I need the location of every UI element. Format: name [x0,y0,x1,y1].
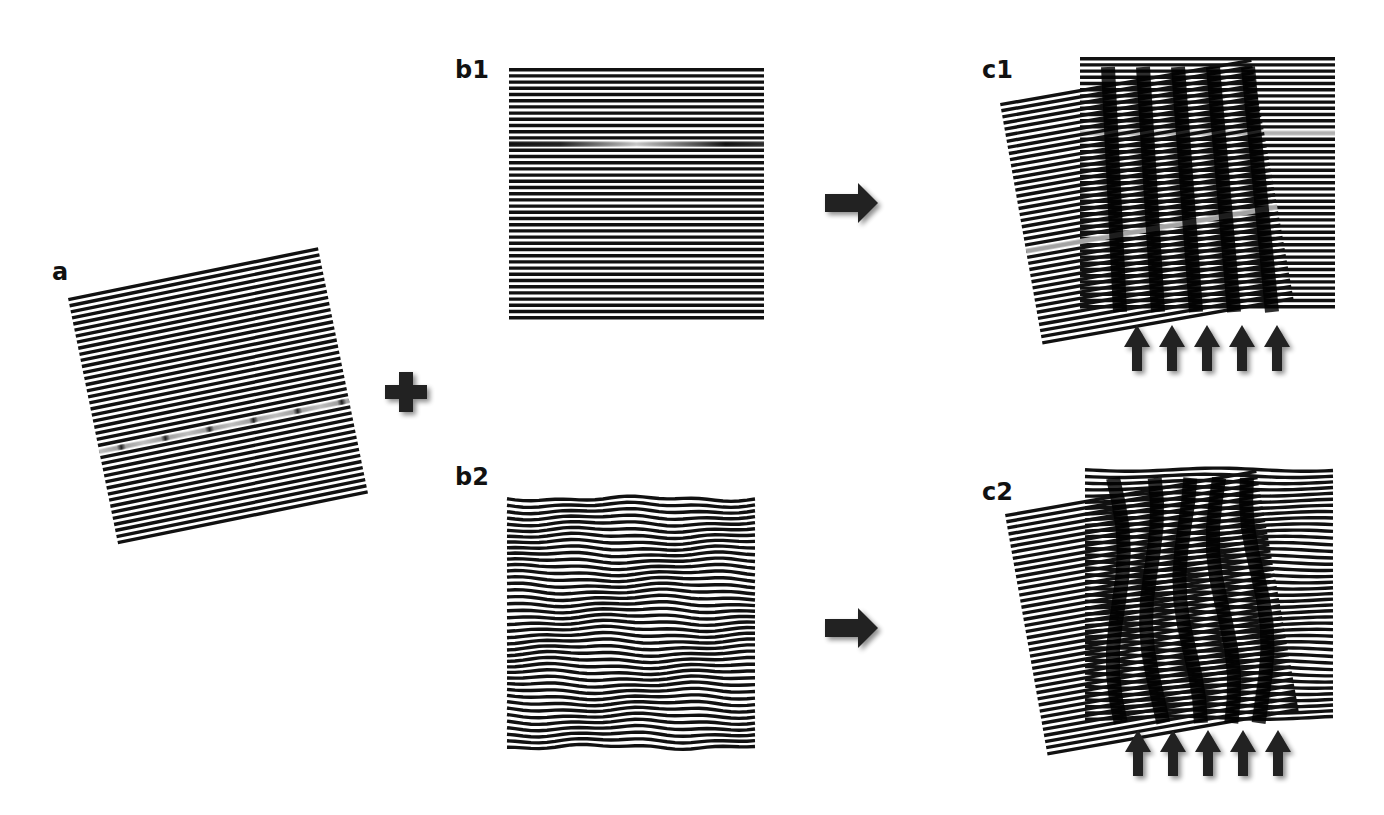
grating-line [507,564,755,569]
grating-line [507,522,755,526]
panel-c1: c1 [982,56,1335,371]
grating-line [507,663,755,668]
grating-line [507,719,755,724]
grating-line [507,589,755,594]
grating-line [507,614,755,619]
grating-b1 [509,70,764,318]
grating-line [507,620,755,625]
arrow-up-icon [1229,325,1255,371]
arrow-up-icon [1194,325,1220,371]
grating-line [507,527,755,532]
grating-line [507,626,755,631]
grating-line [507,682,755,687]
grating-line [507,515,755,520]
arrow-up-icon [1265,730,1291,776]
grating-line [507,602,755,607]
grating-line [507,726,755,731]
grating-b2 [507,496,755,749]
arrows-c1 [1124,325,1290,371]
grating-line [507,695,755,700]
grating-line [1085,474,1333,477]
grating-line [507,645,755,650]
grating-line [507,707,755,712]
arrow-up-icon [1230,730,1256,776]
grating-b1-lines [509,70,764,318]
grating-line [507,509,755,514]
grating-line [507,739,755,743]
grating-a [68,249,367,543]
panel-b1-label: b1 [455,56,489,84]
grating-line [507,533,755,538]
plus-icon [385,372,427,412]
grating-a-lines [68,249,367,543]
grating-line [507,702,755,706]
grating-b2-lines [507,496,755,749]
grating-c2 [1005,468,1333,754]
arrow-right-icon [825,608,878,648]
grating-line [507,577,755,582]
moire-fringe [1113,478,1124,723]
grating-line [507,570,755,575]
panel-c2-label: c2 [982,478,1013,506]
defect-line [509,141,764,146]
grating-line [507,558,755,563]
grating-line [507,688,755,693]
arrow-right-icon [825,183,878,223]
grating-line [507,608,755,613]
arrow-up-icon [1195,730,1221,776]
arrow-up-icon [1159,325,1185,371]
panel-a-label: a [52,258,68,286]
grating-line [507,546,755,550]
grating-line [507,676,755,680]
grating-line [507,639,755,644]
arrow-up-icon [1124,325,1150,371]
grating-line [507,651,755,656]
panel-b2: b2 [455,463,755,749]
panel-b1: b1 [455,56,764,318]
grating-line [507,744,755,749]
grating-line [507,713,755,718]
arrow-up-icon [1264,325,1290,371]
grating-line [507,502,755,507]
grating-line [507,632,755,637]
grating-line [507,583,755,588]
grating-line [507,670,755,675]
grating-line [507,595,755,600]
grating-line [1085,468,1333,471]
panel-c2: c2 [982,468,1333,776]
grating-c1 [1000,59,1335,343]
grating-line [507,552,755,557]
moire-figure: a b1 b2 c1 c2 [0,0,1384,815]
panel-c1-label: c1 [982,56,1013,84]
grating-line [507,539,755,544]
grating-line [507,732,755,737]
arrow-up-icon [1160,730,1186,776]
panel-a: a [52,249,368,543]
panel-b2-label: b2 [455,463,489,491]
grating-line [507,657,755,662]
